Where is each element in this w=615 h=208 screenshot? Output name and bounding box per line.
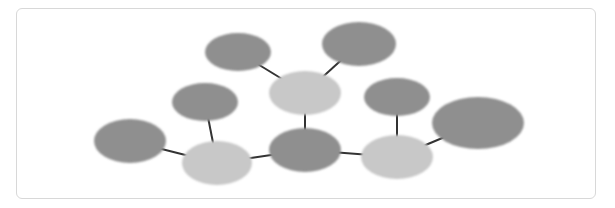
node-n7 [269, 128, 341, 172]
node-n4 [172, 83, 238, 121]
node-n1 [205, 33, 271, 71]
bubble-diagram [0, 0, 615, 208]
node-n10 [432, 97, 524, 149]
node-n2 [322, 22, 396, 66]
node-n8 [364, 78, 430, 116]
node-n9 [361, 135, 433, 179]
node-n6 [182, 141, 252, 185]
nodes [94, 22, 524, 185]
node-n3 [269, 71, 341, 115]
node-n5 [94, 119, 166, 163]
